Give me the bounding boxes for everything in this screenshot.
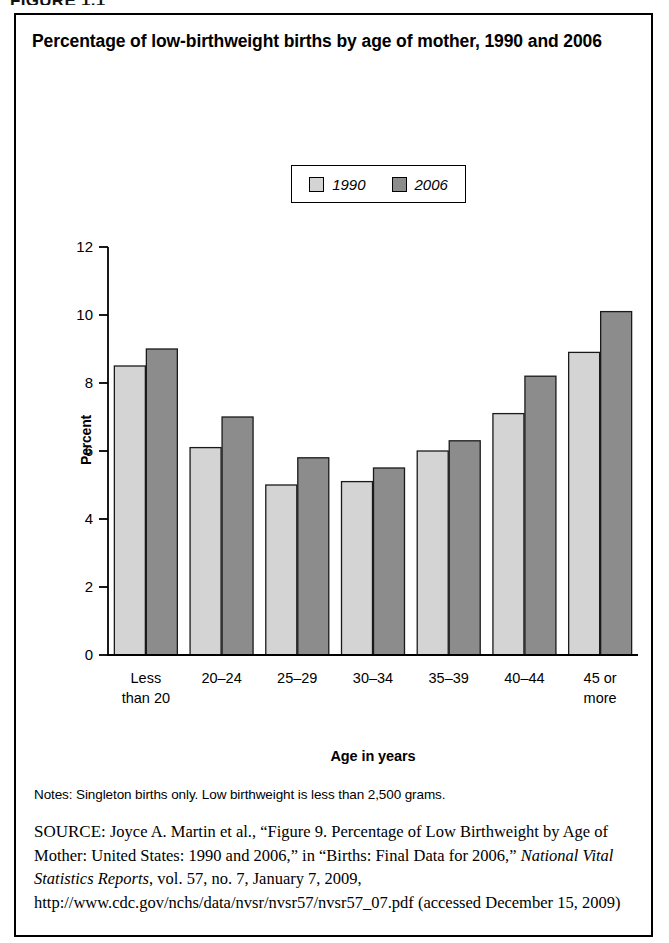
bar-1990-0: [114, 366, 145, 655]
y-tick-label-2: 2: [67, 579, 93, 594]
bar-2006-6: [601, 312, 632, 655]
y-tick-label-4: 4: [67, 511, 93, 526]
bar-2006-0: [146, 349, 177, 655]
bar-2006-5: [525, 376, 556, 655]
source-prefix: SOURCE:: [34, 822, 106, 841]
y-axis-title: Percent: [78, 395, 94, 485]
legend-swatch-2006: [392, 177, 407, 192]
bar-1990-6: [569, 352, 600, 655]
chart-notes: Notes: Singleton births only. Low birthw…: [34, 787, 624, 802]
y-tick-label-0: 0: [67, 647, 93, 662]
x-axis-title: Age in years: [108, 748, 638, 764]
x-category-label-6: 45 or more: [550, 668, 650, 708]
y-tick-label-6: 6: [67, 443, 93, 458]
bar-2006-3: [374, 468, 405, 655]
legend-item-2006: 2006: [392, 176, 448, 193]
legend-item-1990: 1990: [309, 176, 365, 193]
bar-1990-2: [266, 485, 297, 655]
chart-source: SOURCE: Joyce A. Martin et al., “Figure …: [34, 820, 634, 914]
legend-label-2006: 2006: [415, 176, 448, 193]
y-tick-label-12: 12: [67, 239, 93, 254]
bar-1990-5: [493, 414, 524, 655]
chart-legend: 1990 2006: [291, 165, 466, 203]
bar-2006-1: [222, 417, 253, 655]
bar-1990-4: [417, 451, 448, 655]
legend-label-1990: 1990: [332, 176, 365, 193]
y-tick-label-10: 10: [67, 307, 93, 322]
bar-1990-3: [342, 482, 373, 655]
legend-swatch-1990: [309, 177, 324, 192]
bar-1990-1: [190, 448, 221, 655]
bar-2006-4: [449, 441, 480, 655]
bar-2006-2: [298, 458, 329, 655]
y-tick-label-8: 8: [67, 375, 93, 390]
